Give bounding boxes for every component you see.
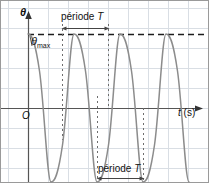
x-axis-unit: (s) [184, 107, 196, 118]
theta-max-label: θmax [31, 36, 50, 49]
period-bottom-symbol: T [134, 163, 140, 174]
y-axis-label: θ [20, 7, 26, 18]
origin-label: O [22, 111, 30, 121]
period-top-text: période [61, 11, 94, 22]
x-axis-label: t (s) [178, 108, 195, 118]
plot-canvas [0, 0, 209, 183]
period-top-symbol: T [97, 11, 103, 22]
period-top-label: période T [61, 12, 103, 22]
x-axis-symbol: t [178, 107, 181, 118]
theta-max-subscript: max [37, 42, 50, 49]
period-bottom-label: période T [98, 164, 140, 174]
oscillation-graph-figure: θ θmax O t (s) période T période T [0, 0, 209, 183]
period-bottom-text: période [98, 163, 131, 174]
